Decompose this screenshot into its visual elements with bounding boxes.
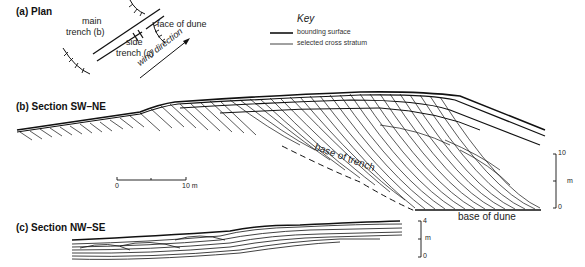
horizontal-scale-end: 10 m (182, 182, 198, 189)
main-trench-label-line1: main (82, 16, 102, 26)
horizontal-scale-start: 0 (115, 182, 119, 189)
base-of-dune-label: base of dune (458, 211, 516, 222)
section-b-title: (b) Section SW–NE (16, 101, 106, 112)
section-c-title: (c) Section NW–SE (16, 222, 105, 233)
key-item-bounding-surface: bounding surface (297, 28, 351, 35)
side-trench-label-line1: side (126, 37, 143, 47)
section-c-vscale-top: 4 (423, 217, 427, 224)
section-c-drawing (72, 221, 421, 259)
key-lines (270, 33, 293, 44)
section-b-vscale-unit: m (567, 177, 573, 184)
plan-title: (a) Plan (16, 6, 52, 17)
key-title: Key (297, 13, 314, 24)
key-item-selected-cross-stratum: selected cross stratum (297, 39, 367, 46)
main-trench-label-line2: trench (b) (66, 27, 105, 37)
face-of-dune-label: face of dune (157, 19, 207, 29)
section-c-vscale-bottom: 0 (423, 252, 427, 259)
section-c-vscale-unit: m (425, 234, 431, 241)
section-b-vscale-bottom: 0 (558, 203, 562, 210)
section-b-vscale-top: 10 (558, 149, 566, 156)
